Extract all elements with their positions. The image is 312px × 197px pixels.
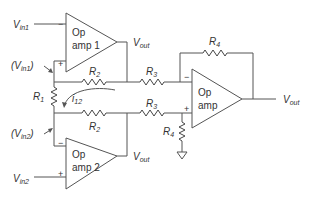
r1-resistor [51,87,57,106]
instrumentation-amplifier-diagram: Op amp 1 − + Vin1 Vout (Vin1) R2 R3 R1 i… [0,0,312,197]
r1-label: R1 [33,91,44,103]
op-amp-1-vout-label: Vout [133,37,150,49]
vin1-label: Vin1 [13,19,29,31]
op-amp-1-label-line2: amp 1 [72,40,100,51]
op-amp-3-minus-sign: − [184,72,189,82]
op-amp-3-triangle [192,69,242,128]
r2-bottom-label: R2 [89,121,100,133]
op-amp-1: Op amp 1 − + [58,13,117,72]
vin1-node-arrowhead-icon [48,68,53,73]
r4-ground-resistor [179,122,185,141]
op-amp-3: Op amp − + [184,69,242,128]
op-amp-2-output-wire [117,113,127,156]
vin2-node-arrowhead-icon [48,128,53,133]
op-amp-3-plus-sign: + [184,104,189,114]
vin2-node-label: (Vin2) [11,128,34,140]
op-amp-3-label-line2: amp [198,100,218,111]
op-amp-2: Op amp 2 − + [58,138,117,189]
r3-top-label: R3 [146,66,157,78]
r3-bottom-resistor [140,110,164,116]
r3-top-resistor [140,79,164,85]
op-amp-1-output-wire [117,42,127,82]
op-amp-2-label-line2: amp 2 [72,162,100,173]
i12-arrowhead-icon [62,102,67,108]
vin2-label: Vin2 [13,173,29,185]
op-amp-1-label-line1: Op [72,27,86,38]
op-amp-2-vout-label: Vout [133,151,150,163]
r2-top-label: R2 [89,66,100,78]
r4-feedback-resistor [203,50,227,56]
op-amp-3-label-line1: Op [198,87,212,98]
final-vout-label: Vout [283,94,300,106]
r4-ground-label: R4 [163,126,174,138]
r2-top-resistor [82,79,106,85]
ground-icon [177,152,187,159]
r2-bottom-resistor [82,110,106,116]
r4-feedback-label: R4 [209,36,220,48]
r3-bottom-label: R3 [146,98,157,110]
vin1-node-label: (Vin1) [11,60,34,72]
op-amp-2-label-line1: Op [72,149,86,160]
i12-label: i12 [72,93,82,105]
